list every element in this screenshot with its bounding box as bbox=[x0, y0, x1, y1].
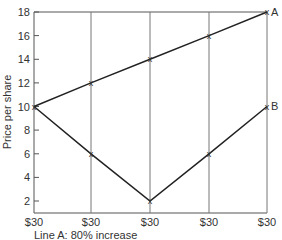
marker-icon: x bbox=[207, 31, 212, 41]
series-b-label: B bbox=[271, 100, 278, 112]
marker-icon: x bbox=[207, 149, 212, 159]
ytick-6: 6 bbox=[24, 148, 30, 160]
xtick-1: $30 bbox=[25, 216, 43, 228]
price-chart: 18 16 14 12 10 8 6 4 2 Price per share $… bbox=[0, 0, 282, 240]
ytick-2: 2 bbox=[24, 195, 30, 207]
series-a-label: A bbox=[271, 6, 279, 18]
ytick-8: 8 bbox=[24, 124, 30, 136]
vertical-gridlines bbox=[91, 12, 267, 213]
marker-icon: x bbox=[89, 78, 94, 88]
marker-icon: x bbox=[32, 102, 37, 112]
y-tick-labels: 18 16 14 12 10 8 6 4 2 bbox=[18, 6, 30, 207]
xtick-2: $30 bbox=[82, 216, 100, 228]
x-tick-labels: $30 $30 $30 $30 $30 bbox=[25, 216, 276, 228]
marker-icon: x bbox=[265, 7, 270, 17]
xtick-4: $30 bbox=[200, 216, 218, 228]
data-point-markers: x x x x x x x x x bbox=[32, 7, 270, 206]
ytick-4: 4 bbox=[24, 171, 30, 183]
ytick-10: 10 bbox=[18, 101, 30, 113]
ytick-14: 14 bbox=[18, 53, 30, 65]
marker-icon: x bbox=[148, 196, 153, 206]
marker-icon: x bbox=[89, 149, 94, 159]
ytick-18: 18 bbox=[18, 6, 30, 18]
marker-icon: x bbox=[265, 102, 270, 112]
annotation-text: Line A: 80% increase bbox=[34, 229, 137, 240]
y-axis-label: Price per share bbox=[1, 75, 13, 150]
marker-icon: x bbox=[148, 54, 153, 64]
ytick-16: 16 bbox=[18, 30, 30, 42]
xtick-3: $30 bbox=[141, 216, 159, 228]
ytick-12: 12 bbox=[18, 77, 30, 89]
xtick-5: $30 bbox=[258, 216, 276, 228]
